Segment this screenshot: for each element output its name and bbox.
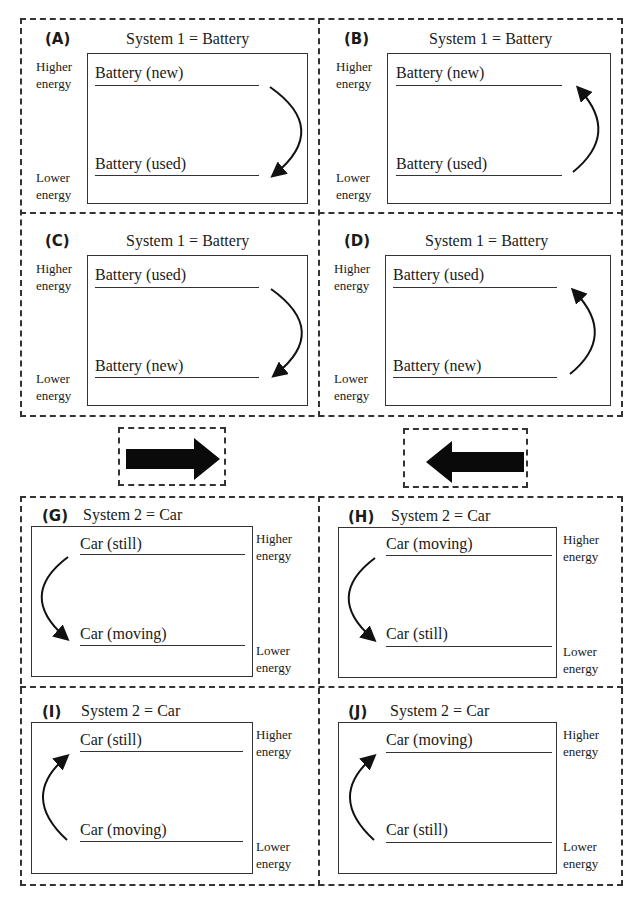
lower-level-line: [95, 377, 259, 378]
panel-title: System 2 = Car: [83, 506, 182, 524]
upper-level-line: [95, 85, 259, 86]
lower-level-label: Battery (new): [393, 357, 481, 375]
higher-energy-label: Higherenergy: [334, 260, 370, 294]
panel-title: System 1 = Battery: [429, 30, 552, 48]
upper-level-line: [396, 85, 562, 86]
upper-level-line: [393, 287, 557, 288]
lower-level-label: Car (moving): [80, 821, 167, 839]
higher-energy-label: Higherenergy: [256, 530, 292, 564]
panel-letter: (H): [348, 508, 374, 526]
panel-title: System 1 = Battery: [126, 30, 249, 48]
lower-energy-label: Lowerenergy: [256, 838, 291, 872]
curved-arrow-down-icon: [32, 555, 77, 650]
lower-energy-label: Lowerenergy: [563, 838, 598, 872]
panel-title: System 2 = Car: [390, 702, 489, 720]
battery-frame-divider-v: [318, 18, 320, 417]
battery-frame-divider-h: [20, 212, 623, 214]
upper-level-label: Car (moving): [386, 535, 473, 553]
lower-level-line: [396, 175, 562, 176]
panel-letter: (G): [42, 507, 68, 525]
upper-level-line: [80, 554, 245, 555]
arrow-right-icon: [124, 437, 224, 481]
upper-level-label: Battery (used): [393, 266, 484, 284]
lower-level-label: Battery (new): [95, 357, 183, 375]
lower-level-line: [386, 646, 552, 647]
curved-arrow-up-icon: [567, 286, 612, 386]
lower-energy-label: Lowerenergy: [36, 169, 71, 203]
lower-energy-label: Lowerenergy: [36, 370, 71, 404]
lower-level-line: [95, 175, 259, 176]
lower-level-label: Battery (used): [95, 155, 186, 173]
curved-arrow-up-icon: [570, 84, 615, 184]
higher-energy-label: Higherenergy: [256, 726, 292, 760]
panel-letter: (B): [344, 30, 369, 48]
upper-level-label: Car (moving): [386, 731, 473, 749]
panel-title: System 2 = Car: [81, 702, 180, 720]
curved-arrow-up-icon: [339, 752, 384, 847]
higher-energy-label: Higherenergy: [36, 58, 72, 92]
lower-level-line: [80, 841, 243, 842]
car-frame-divider-v: [318, 496, 320, 886]
lower-energy-label: Lowerenergy: [334, 370, 369, 404]
curved-arrow-down-icon: [339, 556, 384, 651]
lower-level-line: [386, 842, 552, 843]
upper-level-label: Battery (new): [396, 64, 484, 82]
curved-arrow-down-icon: [268, 286, 313, 386]
arrow-left-icon: [420, 440, 526, 484]
panel-letter: (I): [42, 703, 61, 721]
car-frame-divider-h: [20, 686, 623, 688]
lower-energy-label: Lowerenergy: [563, 643, 598, 677]
upper-level-label: Car (still): [80, 535, 142, 553]
panel-title: System 2 = Car: [391, 507, 490, 525]
lower-level-line: [393, 377, 557, 378]
upper-level-label: Battery (used): [95, 266, 186, 284]
upper-level-line: [386, 752, 552, 753]
lower-level-label: Battery (used): [396, 155, 487, 173]
panel-title: System 1 = Battery: [126, 232, 249, 250]
panel-letter: (D): [344, 232, 370, 250]
lower-level-label: Car (moving): [80, 625, 167, 643]
higher-energy-label: Higherenergy: [36, 260, 72, 294]
higher-energy-label: Higherenergy: [563, 726, 599, 760]
higher-energy-label: Higherenergy: [563, 531, 599, 565]
curved-arrow-up-icon: [32, 752, 77, 847]
panel-letter: (A): [45, 30, 70, 48]
lower-level-label: Car (still): [386, 625, 448, 643]
panel-letter: (J): [348, 703, 367, 721]
lower-energy-label: Lowerenergy: [256, 642, 291, 676]
lower-level-label: Car (still): [386, 821, 448, 839]
upper-level-line: [386, 555, 552, 556]
upper-level-line: [95, 287, 259, 288]
panel-letter: (C): [45, 232, 70, 250]
upper-level-label: Car (still): [80, 731, 142, 749]
higher-energy-label: Higherenergy: [336, 58, 372, 92]
upper-level-line: [80, 751, 243, 752]
panel-title: System 1 = Battery: [425, 232, 548, 250]
lower-energy-label: Lowerenergy: [336, 169, 371, 203]
upper-level-label: Battery (new): [95, 64, 183, 82]
curved-arrow-down-icon: [265, 84, 310, 184]
lower-level-line: [80, 645, 245, 646]
